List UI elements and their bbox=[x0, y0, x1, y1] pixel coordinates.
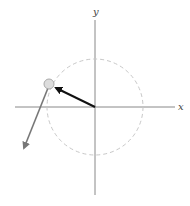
y-axis-label: y bbox=[92, 6, 99, 17]
velocity-vector-arrow bbox=[24, 88, 48, 148]
circular-motion-diagram: x y bbox=[0, 0, 190, 206]
x-axis-label: x bbox=[178, 101, 184, 112]
radius-vector-arrow bbox=[56, 88, 95, 107]
particle-ball bbox=[44, 79, 54, 89]
